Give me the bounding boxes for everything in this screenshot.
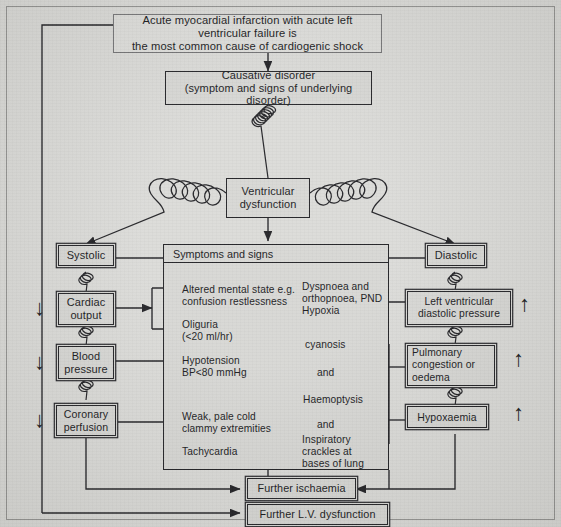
symptom-altered-mental-state: Altered mental state e.g. confusion rest… xyxy=(182,284,302,308)
trend-down-blood-pressure: ↓ xyxy=(34,351,45,373)
node-lv-diastolic-pressure-label: Left ventricular diastolic pressure xyxy=(418,296,500,320)
node-blood-pressure: Blood pressure xyxy=(58,346,114,379)
node-premise: Acute myocardial infarction with acute l… xyxy=(113,14,382,53)
node-hypoxaemia-label: Hypoxaemia xyxy=(417,411,476,423)
node-diastolic-label: Diastolic xyxy=(435,249,477,262)
trend-down-coronary-perfusion: ↓ xyxy=(34,409,45,431)
node-coronary-perfusion-label: Coronary perfusion xyxy=(64,408,108,433)
node-ventricular-dysfunction-label: Ventricular dysfunction xyxy=(240,185,297,211)
trend-down-cardiac-output: ↓ xyxy=(34,297,45,319)
node-blood-pressure-label: Blood pressure xyxy=(64,350,108,376)
node-coronary-perfusion: Coronary perfusion xyxy=(56,405,116,436)
symptom-weak-pale-cold: Weak, pale cold clammy extremities xyxy=(182,411,302,435)
node-further-ischaemia-label: Further ischaemia xyxy=(257,482,345,495)
node-pulmonary-congestion-label: Pulmonary congestion or oedema xyxy=(408,347,494,383)
symptom-inspiratory-crackles: Inspiratory crackles at bases of lung xyxy=(302,434,390,471)
node-causative-disorder-label: Causative disorder (symptom and signs of… xyxy=(170,69,367,108)
node-further-ischaemia: Further ischaemia xyxy=(247,478,356,499)
node-systolic: Systolic xyxy=(58,245,114,266)
node-systolic-label: Systolic xyxy=(67,249,106,262)
node-lv-diastolic-pressure: Left ventricular diastolic pressure xyxy=(407,291,511,325)
trend-up-pulmonary-congestion: ↑ xyxy=(513,348,524,370)
node-hypoxaemia: Hypoxaemia xyxy=(407,406,487,428)
flowchart-page: Acute myocardial infarction with acute l… xyxy=(0,0,561,527)
symptom-oliguria: Oliguria (<20 ml/hr) xyxy=(182,319,302,343)
trend-up-lv-diastolic-pressure: ↑ xyxy=(519,293,530,315)
node-ventricular-dysfunction: Ventricular dysfunction xyxy=(226,178,310,218)
node-diastolic: Diastolic xyxy=(427,245,485,266)
node-further-lv-dysfunction-label: Further L.V. dysfunction xyxy=(259,508,375,521)
node-further-lv-dysfunction: Further L.V. dysfunction xyxy=(247,504,388,525)
node-pulmonary-congestion: Pulmonary congestion or oedema xyxy=(407,345,495,386)
symptom-cyanosis: cyanosis xyxy=(305,339,393,351)
node-cardiac-output-label: Cardiac output xyxy=(67,296,106,322)
symptom-haemoptysis: Haemoptysis xyxy=(303,394,391,406)
symptoms-panel-header-label: Symptoms and signs xyxy=(173,248,273,260)
node-premise-label: Acute myocardial infarction with acute l… xyxy=(120,14,375,54)
symptom-dyspnoea-orthopnoea: Dyspnoea and orthopnoea, PND Hypoxia xyxy=(302,281,390,318)
node-causative-disorder: Causative disorder (symptom and signs of… xyxy=(165,71,372,105)
trend-up-hypoxaemia: ↑ xyxy=(513,402,524,424)
symptom-tachycardia: Tachycardia xyxy=(182,446,302,458)
symptom-and-2: and xyxy=(317,419,377,431)
symptoms-panel-header: Symptoms and signs xyxy=(163,244,389,263)
node-cardiac-output: Cardiac output xyxy=(58,293,114,325)
symptom-and-1: and xyxy=(317,367,377,379)
symptom-hypotension: Hypotension BP<80 mmHg xyxy=(182,355,302,379)
